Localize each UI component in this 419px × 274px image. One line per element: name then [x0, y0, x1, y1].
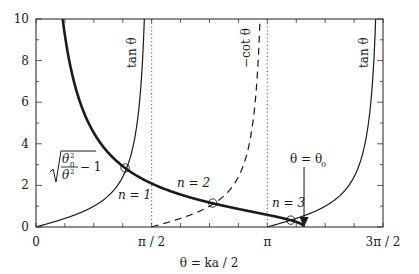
chart: 0π / 2π3π / 20246810 θ = ka / 2 tan θ −c… — [0, 0, 419, 274]
theta0-label: θ = θ — [290, 152, 322, 166]
sqrt-minus-one: − 1 — [80, 160, 102, 174]
n2-label: n = 2 — [177, 176, 210, 190]
x-tick-label: 3π / 2 — [366, 235, 401, 249]
n3-label: n = 3 — [272, 196, 305, 210]
sqrt-denominator: θ — [62, 168, 70, 182]
tan-label-1: tan θ — [125, 37, 139, 68]
arrow-down-icon — [300, 217, 309, 227]
sqrt-num-superscript: 2 — [70, 152, 74, 160]
sqrt-den-superscript: 2 — [70, 168, 74, 176]
x-tick-label: π / 2 — [138, 235, 165, 249]
axis-tick-labels: 0π / 2π3π / 20246810 — [14, 12, 401, 249]
neg-cot-label: −cot θ — [239, 28, 253, 68]
y-tick-label: 10 — [14, 12, 29, 26]
tan-label-2: tan θ — [357, 37, 371, 68]
n1-label: n = 1 — [118, 188, 151, 202]
series-tan-2 — [267, 0, 383, 227]
sqrt-numerator: θ — [62, 152, 70, 166]
x-tick-label: 0 — [32, 235, 40, 249]
y-tick-label: 6 — [21, 95, 29, 109]
y-tick-label: 8 — [21, 54, 29, 68]
plot-curves — [36, 0, 383, 227]
x-axis-label: θ = ka / 2 — [180, 256, 239, 270]
theta0-subscript: 0 — [321, 160, 326, 169]
y-tick-label: 2 — [21, 178, 29, 192]
y-tick-label: 0 — [21, 220, 29, 234]
sqrt-formula-label: θ 0 2 θ 2 − 1 — [50, 151, 102, 182]
y-tick-label: 4 — [21, 137, 29, 151]
theta0-marker: θ = θ 0 — [290, 152, 326, 227]
x-tick-label: π — [263, 235, 271, 249]
